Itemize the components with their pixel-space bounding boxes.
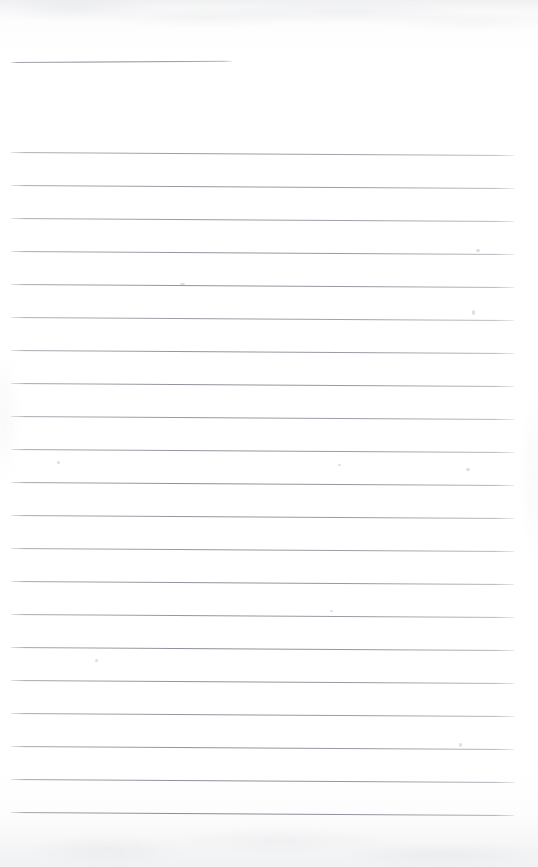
rule-line [11, 680, 514, 684]
rule-line [11, 647, 514, 651]
rule-line [11, 614, 514, 618]
rule-line [11, 185, 514, 189]
scanned-page [0, 0, 538, 867]
rule-line [11, 317, 514, 321]
rule-line [11, 152, 514, 156]
rule-line [11, 812, 514, 816]
rule-line [11, 350, 514, 354]
rule-line [11, 218, 514, 222]
rule-line [11, 746, 514, 750]
rule-line [11, 713, 514, 717]
rule-line [11, 449, 514, 453]
rule-line [11, 548, 514, 552]
rule-line [11, 779, 514, 783]
rule-line-partial [11, 61, 232, 63]
rule-line [11, 284, 514, 288]
rule-line [11, 515, 514, 519]
rule-line [11, 482, 514, 486]
rule-line [11, 383, 514, 387]
rule-line [11, 416, 514, 420]
rule-line [11, 581, 514, 585]
rule-line [11, 251, 514, 255]
ruled-lines-layer [0, 0, 538, 867]
